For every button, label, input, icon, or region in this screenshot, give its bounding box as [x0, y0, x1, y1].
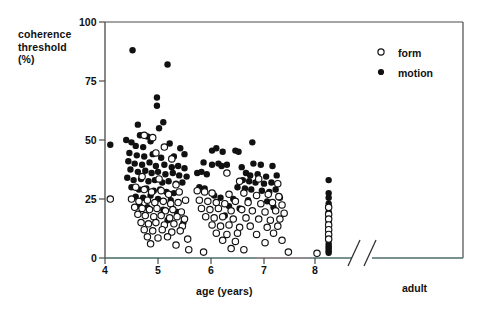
data-point-motion: [129, 47, 135, 53]
data-point-form: [209, 190, 215, 196]
legend-markers: [378, 49, 384, 75]
data-point-form: [228, 245, 234, 251]
data-point-form: [160, 198, 166, 204]
data-point-motion: [269, 163, 275, 169]
data-point-form: [267, 217, 273, 223]
data-point-form: [159, 226, 165, 232]
data-point-form: [150, 228, 156, 234]
data-point-form: [275, 180, 281, 186]
data-point-motion: [146, 159, 152, 165]
x-tick-label-8: 8: [312, 264, 318, 276]
data-point-form: [275, 223, 281, 229]
data-point-motion: [158, 155, 164, 161]
data-point-motion: [175, 163, 181, 169]
data-point-form: [258, 201, 264, 207]
data-point-motion: [325, 195, 331, 201]
data-point-form: [272, 208, 278, 214]
data-point-form: [276, 193, 282, 199]
data-point-form: [236, 178, 242, 184]
data-point-form: [325, 204, 331, 210]
data-point-motion: [142, 167, 148, 173]
data-point-form: [136, 198, 142, 204]
data-point-form: [139, 205, 145, 211]
data-point-motion: [153, 163, 159, 169]
data-point-motion: [261, 180, 267, 186]
legend-label-motion: motion: [398, 67, 433, 79]
data-point-form: [262, 239, 268, 245]
data-point-form: [256, 176, 262, 182]
data-point-motion: [131, 160, 137, 166]
data-point-form: [161, 144, 167, 150]
data-point-motion: [148, 170, 154, 176]
data-point-form: [170, 206, 176, 212]
data-point-motion: [133, 143, 139, 149]
y-tick-label-0: 0: [91, 252, 97, 264]
data-point-form: [150, 134, 156, 140]
data-point-form: [285, 249, 291, 255]
data-point-form: [128, 196, 134, 202]
data-point-form: [147, 241, 153, 247]
data-point-form: [173, 182, 179, 188]
data-point-motion: [107, 142, 113, 148]
data-point-form: [270, 230, 276, 236]
data-point-form: [265, 191, 271, 197]
data-point-motion: [213, 145, 219, 151]
x-tick-label-7: 7: [261, 264, 267, 276]
legend-label-form: form: [398, 47, 421, 59]
x-axis-label: age (years): [196, 285, 253, 297]
data-point-motion: [160, 119, 166, 125]
data-point-form: [224, 170, 230, 176]
data-point-form: [201, 189, 207, 195]
data-point-form: [207, 206, 213, 212]
y-tick-label-25: 25: [85, 193, 97, 205]
data-point-form: [213, 230, 219, 236]
data-point-form: [145, 221, 151, 227]
data-point-form: [169, 156, 175, 162]
data-point-form: [241, 190, 247, 196]
y-axis-label-line-3: (%): [18, 53, 71, 66]
data-point-form: [141, 132, 147, 138]
data-point-form: [148, 189, 154, 195]
data-point-motion: [154, 103, 160, 109]
data-point-motion: [246, 178, 252, 184]
data-point-motion: [258, 162, 264, 168]
data-point-form: [281, 210, 287, 216]
data-point-form: [131, 204, 137, 210]
data-point-motion: [183, 173, 189, 179]
data-point-motion: [134, 152, 140, 158]
x-tick-label-4: 4: [102, 264, 108, 276]
data-point-form: [215, 205, 221, 211]
data-point-motion: [170, 170, 176, 176]
data-point-motion: [139, 162, 145, 168]
data-point-motion: [248, 186, 254, 192]
data-point-form: [264, 224, 270, 230]
data-point-form: [171, 221, 177, 227]
y-axis-ticks: [99, 22, 105, 258]
data-point-form: [158, 212, 164, 218]
data-point-form: [196, 197, 202, 203]
data-point-motion: [130, 177, 136, 183]
data-point-motion: [268, 179, 274, 185]
data-point-form: [279, 237, 285, 243]
x-tick-label-5: 5: [155, 264, 161, 276]
data-point-form: [253, 192, 259, 198]
data-point-motion: [250, 160, 256, 166]
data-point-motion: [165, 178, 171, 184]
data-point-motion: [200, 159, 206, 165]
data-point-form: [176, 189, 182, 195]
data-point-form: [245, 199, 251, 205]
data-point-form: [175, 199, 181, 205]
data-point-motion: [263, 173, 269, 179]
data-point-form: [249, 208, 255, 214]
data-point-motion: [247, 172, 253, 178]
data-point-form: [217, 223, 223, 229]
axis-break-marks: [348, 240, 376, 266]
data-point-motion: [209, 162, 215, 168]
data-point-form: [141, 186, 147, 192]
data-point-motion: [140, 144, 146, 150]
data-point-form: [154, 205, 160, 211]
data-point-form: [232, 238, 238, 244]
data-point-motion: [239, 164, 245, 170]
adult-group-label: adult: [402, 282, 427, 294]
data-point-form: [277, 216, 283, 222]
